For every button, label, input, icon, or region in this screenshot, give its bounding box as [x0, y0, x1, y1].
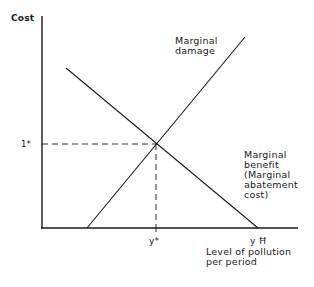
x-max-tick-label: y Ħ [250, 236, 267, 246]
x-axis-label: Level of pollution per period [206, 247, 291, 267]
marginal-damage-label-line: damage [175, 46, 218, 56]
x-star-tick-label: y* [149, 236, 159, 246]
x-axis-label-line: per period [206, 257, 291, 267]
marginal-benefit-label-line: cost) [244, 190, 298, 200]
y-axis-label: Cost [11, 13, 34, 23]
marginal-benefit-label: Marginal benefit (Marginal abatement cos… [244, 150, 298, 200]
marginal-damage-label: Marginal damage [175, 36, 218, 56]
marginal-damage-curve [87, 37, 245, 228]
y-star-tick-label: 1* [21, 139, 31, 149]
marginal-benefit-curve [66, 68, 258, 228]
